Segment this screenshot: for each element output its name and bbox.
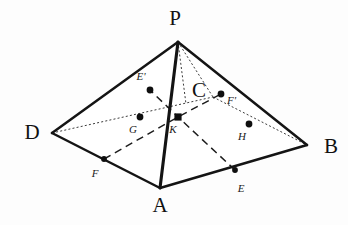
vertex-label-b: B [324, 134, 338, 158]
point-label-f: F [91, 167, 99, 179]
vertex-label-a: A [152, 193, 168, 217]
vertex-label-c: C [192, 78, 206, 102]
point-label-g: G [129, 123, 137, 135]
point-marker-f-prime [218, 91, 225, 98]
point-marker-k [174, 113, 181, 120]
vertex-label-d: D [24, 120, 39, 144]
point-marker-h [246, 121, 253, 128]
vertex-label-p: P [169, 6, 181, 30]
point-label-f-prime: F' [226, 94, 237, 106]
point-label-e-prime: E' [135, 70, 146, 82]
point-marker-e-prime [147, 87, 154, 94]
point-marker-f [101, 156, 107, 162]
point-label-k: K [168, 123, 177, 135]
geometry-figure: P A B C D E' F' G H K F E [0, 0, 348, 225]
point-label-e: E [237, 182, 245, 194]
point-label-h: H [237, 130, 247, 142]
point-marker-e [232, 167, 238, 173]
point-marker-g [137, 114, 144, 121]
pyramid-diagram: P A B C D E' F' G H K F E [0, 0, 348, 225]
